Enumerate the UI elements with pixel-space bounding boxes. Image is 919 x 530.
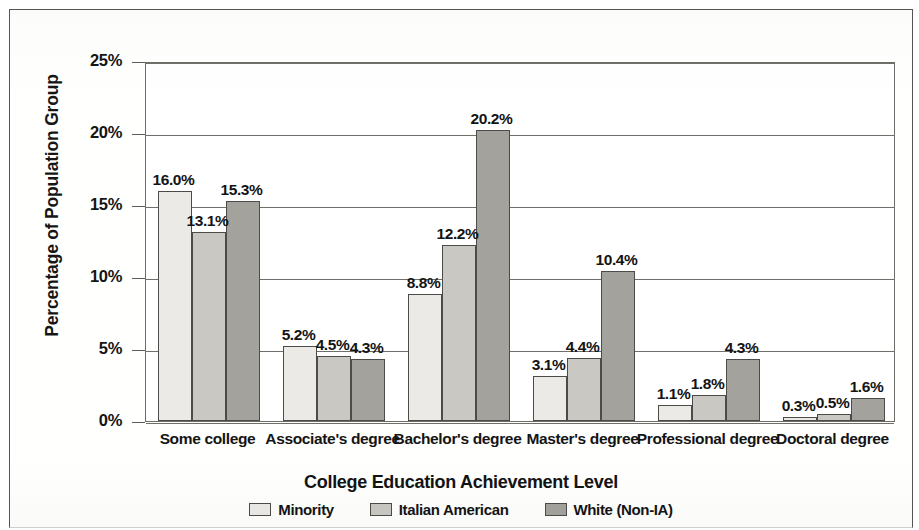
y-axis-tick-label: 15% — [90, 195, 122, 214]
legend-label: Italian American — [399, 501, 509, 518]
legend-swatch — [249, 503, 271, 516]
y-axis-tick-label: 25% — [90, 51, 122, 70]
x-axis-tick-label: Doctoral degree — [758, 430, 907, 448]
legend-item: White (Non-IA) — [545, 501, 673, 518]
y-axis-tick-mark — [132, 134, 145, 135]
y-axis-tick-label: 5% — [99, 339, 122, 358]
bar — [851, 398, 885, 421]
gridline — [146, 135, 894, 136]
bar — [726, 359, 760, 421]
x-axis-title: College Education Achievement Level — [10, 472, 912, 493]
bar — [283, 346, 317, 421]
bar — [601, 271, 635, 421]
legend-swatch — [545, 503, 567, 516]
bar — [692, 395, 726, 421]
y-axis-tick-mark — [132, 62, 145, 63]
plot-area — [145, 62, 895, 422]
legend-label: White (Non-IA) — [574, 501, 673, 518]
legend-swatch — [370, 503, 392, 516]
y-axis-tick-label: 0% — [99, 411, 122, 430]
bar — [351, 359, 385, 421]
bar — [442, 245, 476, 421]
y-axis-title: Percentage of Population Group — [42, 56, 63, 356]
figure-frame: Percentage of Population Group 0%5%10%15… — [9, 9, 913, 528]
y-axis-tick-mark — [132, 278, 145, 279]
gridline — [146, 423, 894, 424]
bar — [533, 376, 567, 421]
y-axis-tick-mark — [132, 422, 145, 423]
legend-item: Italian American — [370, 501, 509, 518]
bar — [567, 358, 601, 421]
legend-item: Minority — [249, 501, 334, 518]
bar — [783, 417, 817, 421]
y-axis-tick-label: 20% — [90, 123, 122, 142]
bar — [158, 191, 192, 421]
bar — [192, 232, 226, 421]
gridline — [146, 63, 894, 64]
y-axis-tick-label: 10% — [90, 267, 122, 286]
bar — [817, 414, 851, 421]
bar — [476, 130, 510, 421]
legend-label: Minority — [278, 501, 334, 518]
bar — [658, 405, 692, 421]
bar — [317, 356, 351, 421]
chart-legend: MinorityItalian AmericanWhite (Non-IA) — [10, 501, 912, 518]
y-axis-tick-mark — [132, 350, 145, 351]
y-axis-tick-mark — [132, 206, 145, 207]
bar — [226, 201, 260, 421]
bar — [408, 294, 442, 421]
